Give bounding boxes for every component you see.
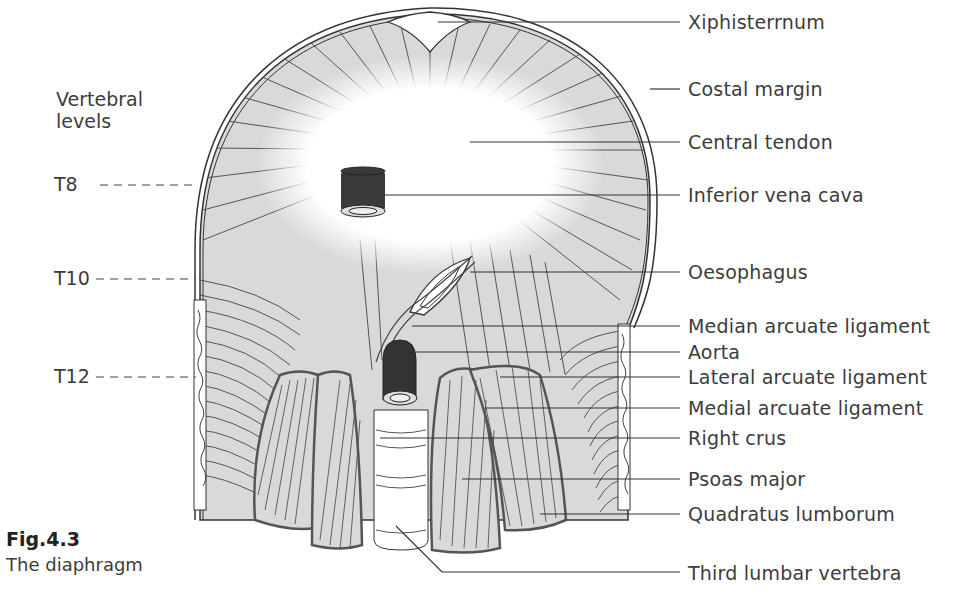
label-oesophagus: Oesophagus bbox=[688, 261, 808, 283]
right-psoas-major bbox=[431, 366, 566, 553]
label-psoas-major: Psoas major bbox=[688, 468, 805, 490]
vertebral-levels-heading: Vertebral levels bbox=[56, 88, 143, 132]
label-median-arcuate-ligament: Median arcuate ligament bbox=[688, 315, 930, 337]
vertebral-levels-heading-line1: Vertebral bbox=[56, 88, 143, 110]
level-label-t12: T12 bbox=[54, 365, 90, 387]
figure-number: Fig.4.3 bbox=[6, 528, 80, 550]
vertebral-levels-heading-line2: levels bbox=[56, 110, 143, 132]
label-aorta: Aorta bbox=[688, 341, 740, 363]
label-right-crus: Right crus bbox=[688, 427, 786, 449]
central-tendon bbox=[255, 55, 605, 275]
label-inferior-vena-cava: Inferior vena cava bbox=[688, 184, 864, 206]
level-label-t8: T8 bbox=[54, 173, 78, 195]
label-xiphisternum: Xiphisterrnum bbox=[688, 11, 825, 33]
aorta bbox=[383, 340, 417, 405]
vertebral-level-lines bbox=[96, 185, 196, 377]
left-psoas-major bbox=[254, 372, 362, 549]
figure-caption: The diaphragm bbox=[6, 554, 143, 575]
left-rib-strip bbox=[194, 300, 206, 510]
label-third-lumbar-vertebra: Third lumbar vertebra bbox=[688, 562, 902, 584]
label-quadratus-lumborum: Quadratus lumborum bbox=[688, 503, 895, 525]
label-central-tendon: Central tendon bbox=[688, 131, 833, 153]
label-costal-margin: Costal margin bbox=[688, 78, 823, 100]
level-label-t10: T10 bbox=[54, 267, 90, 289]
label-medial-arcuate-ligament: Medial arcuate ligament bbox=[688, 397, 923, 419]
third-lumbar-vertebra bbox=[374, 410, 428, 550]
inferior-vena-cava bbox=[341, 167, 385, 217]
label-lateral-arcuate-ligament: Lateral arcuate ligament bbox=[688, 366, 927, 388]
